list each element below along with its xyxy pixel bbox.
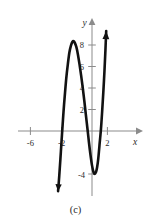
y-axis-arrowhead (89, 18, 96, 25)
y-tick-label-8: 8 (80, 40, 84, 50)
x-tick-label--6: -6 (27, 138, 34, 148)
x-axis-label: x (132, 137, 138, 147)
y-axis-label: y (81, 18, 87, 28)
x-tick-label-2: 2 (105, 138, 109, 148)
curve-arrowhead-upper-right (102, 31, 109, 39)
x-axis: -6 -2 2 x (18, 127, 143, 148)
curve-arrowhead-lower-left (55, 184, 61, 191)
annotation-minimum-value: -4 (78, 170, 86, 180)
graph-figure: -6 -2 2 x 2 4 6 8 y -4 (c) (0, 0, 151, 217)
x-axis-arrowhead (136, 128, 143, 135)
y-tick-label-2: 2 (80, 105, 84, 115)
cubic-function-plot: -6 -2 2 x 2 4 6 8 y -4 (0, 0, 151, 217)
figure-caption: (c) (0, 204, 151, 215)
